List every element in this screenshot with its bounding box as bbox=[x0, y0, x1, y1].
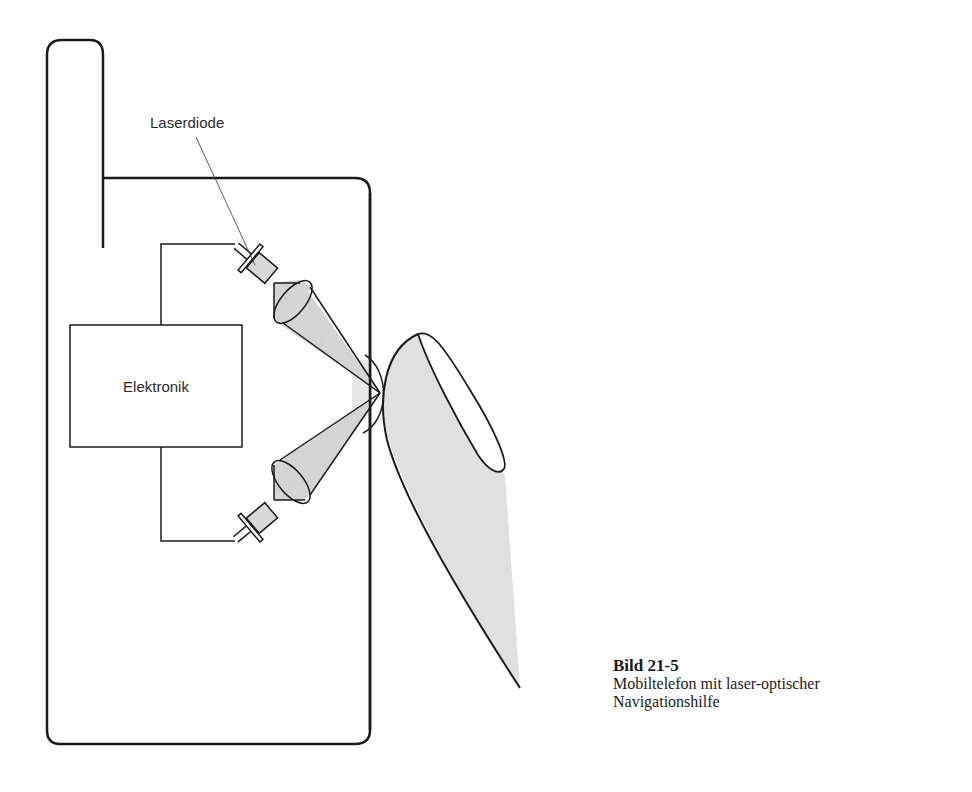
figure-number: Bild 21-5 bbox=[613, 657, 820, 675]
finger bbox=[383, 333, 520, 688]
caption-line-1: Mobiltelefon mit laser-optischer bbox=[613, 675, 820, 693]
beam-bottom bbox=[265, 393, 380, 510]
laser-diode-top bbox=[225, 233, 282, 289]
electronics-box: Elektronik bbox=[70, 325, 242, 447]
wire-top bbox=[161, 244, 235, 325]
laser-diode-label: Laserdiode bbox=[150, 114, 224, 131]
laser-diode-leader bbox=[196, 137, 255, 265]
wire-bottom bbox=[161, 447, 235, 541]
figure-caption: Bild 21-5 Mobiltelefon mit laser-optisch… bbox=[613, 657, 820, 711]
electronics-label: Elektronik bbox=[123, 378, 189, 395]
laser-diode-bottom bbox=[225, 497, 282, 553]
caption-line-2: Navigationshilfe bbox=[613, 693, 820, 711]
beam-top bbox=[267, 274, 380, 393]
phone-laser-navigation-diagram: Elektronik bbox=[0, 0, 972, 792]
